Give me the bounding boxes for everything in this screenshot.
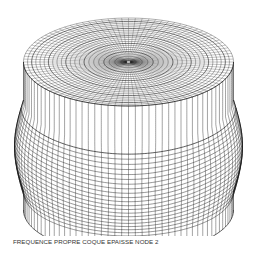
mesh-diagram bbox=[0, 0, 257, 236]
cylinder-mesh bbox=[15, 18, 243, 236]
figure-caption: FREQUENCE PROPRE COQUE EPAISSE NODE 2 bbox=[13, 238, 158, 245]
